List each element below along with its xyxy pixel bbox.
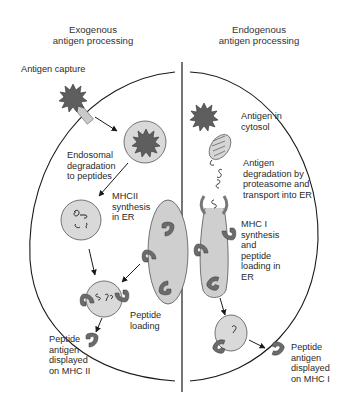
label-mhcii-synthesis: MHCII synthesis in ER bbox=[112, 191, 150, 223]
mhci-vesicle-icon bbox=[212, 315, 247, 354]
peptide-vesicle-icon bbox=[61, 200, 101, 240]
label-antigen-cytosol: Antigen in cytosol bbox=[241, 111, 282, 132]
left-header: Exogenous antigen processing bbox=[38, 24, 148, 46]
label-peptide-loading: Peptide loading bbox=[130, 310, 161, 331]
label-antigen-capture: Antigen capture bbox=[21, 64, 85, 75]
label-endosomal-degradation: Endosomal degradation to peptides bbox=[67, 150, 116, 182]
label-mhcii-displayed: Peptide antigen displayed on MHC II bbox=[49, 334, 90, 376]
loading-vesicle-icon bbox=[80, 281, 129, 317]
captured-antigen-icon bbox=[59, 84, 93, 124]
endosome-icon bbox=[124, 121, 166, 163]
proteasome-icon bbox=[205, 130, 236, 165]
right-header: Endogenous antigen processing bbox=[204, 24, 314, 46]
label-mhci-displayed: Peptide antigen displayed on MHC I bbox=[291, 342, 330, 384]
mhci-er-icon bbox=[194, 196, 236, 298]
label-mhci-synthesis: MHC I synthesis and peptide loading in E… bbox=[241, 219, 280, 283]
mhc-i-surface-icon bbox=[269, 341, 285, 358]
label-proteasome-degradation: Antigen degradation by proteasome and tr… bbox=[243, 158, 312, 200]
cytosol-antigen-icon bbox=[190, 103, 218, 131]
